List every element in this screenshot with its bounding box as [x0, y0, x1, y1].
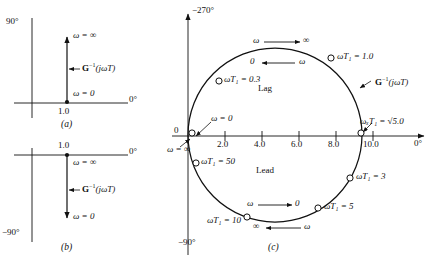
- panel-c-axis-top-label: −270°: [192, 6, 214, 15]
- panel-c-axis-right-label: 0°: [414, 139, 422, 148]
- panel-c-marker-label-0: ωT₁ = 0.3: [224, 75, 260, 84]
- panel-c-transfer-g: G: [375, 77, 382, 87]
- panel-c-omega-zero-label: ω = 0: [211, 114, 232, 123]
- panel-c-direction-1-from: 0: [250, 57, 255, 66]
- panel-c-direction-3-from: ∞: [253, 222, 259, 231]
- figure-text-layer: 90° 0° 1.0 ω = ∞ ω = 0 G−1(jωT) (a) −90°…: [0, 0, 436, 266]
- panel-c-xtick-1: 2.0: [217, 140, 228, 149]
- panel-a-axis-top-label: 90°: [6, 17, 19, 26]
- panel-b-real-tick-label: 1.0: [58, 141, 69, 150]
- figure-inverse-polar-plots: 90° 0° 1.0 ω = ∞ ω = 0 G−1(jωT) (a) −90°…: [0, 0, 436, 266]
- panel-c-transfer-function-label: G−1(jωT): [375, 76, 408, 87]
- panel-c-direction-2-from: ω: [247, 199, 253, 208]
- panel-c-marker-label-4: ωT₁ = 10: [207, 216, 241, 225]
- panel-b-caption: (b): [61, 243, 72, 253]
- panel-b-omega-infinity-label: ω = ∞: [73, 158, 96, 167]
- panel-c-xtick-5: 10.0: [363, 140, 379, 149]
- panel-c-marker-label-5: ωT₁ = 50: [201, 157, 235, 166]
- panel-a-omega-infinity-label: ω = ∞: [73, 31, 96, 40]
- panel-b-transfer-arg: (jωT): [95, 184, 115, 194]
- panel-c-transfer-arg: (jωT): [388, 77, 408, 87]
- panel-c-direction-0-from: ω: [253, 36, 259, 45]
- panel-c-direction-2-to: 0: [295, 199, 300, 208]
- panel-b-transfer-function-label: G−1(jωT): [82, 183, 115, 194]
- panel-a-transfer-arg: (jωT): [95, 63, 115, 73]
- panel-c-caption: (c): [268, 243, 279, 253]
- panel-c-xtick-3: 6.0: [291, 140, 302, 149]
- panel-c-omega-infinity-label: ω = ∞: [167, 145, 190, 154]
- panel-c-direction-0-to: ∞: [303, 36, 309, 45]
- panel-c-region-lead-label: Lead: [256, 166, 274, 175]
- panel-b-axis-bottom-label: −90°: [2, 228, 20, 237]
- panel-c-marker-label-2: ωT₁ = 3: [356, 172, 386, 181]
- panel-c-marker-label-1: ωT₁ = 1.0: [337, 52, 373, 61]
- panel-b-transfer-g: G: [82, 184, 89, 194]
- panel-a-real-tick-label: 1.0: [58, 107, 69, 116]
- panel-b-axis-right-label: 0°: [129, 147, 137, 156]
- panel-c-origin-label: 0: [174, 126, 179, 135]
- panel-a-transfer-function-label: G−1(jωT): [82, 62, 115, 73]
- panel-a-axis-right-label: 0°: [129, 95, 137, 104]
- panel-c-xtick-2: 4.0: [254, 140, 265, 149]
- panel-c-axis-bottom-label: −90°: [178, 238, 196, 247]
- panel-b-omega-zero-label: ω = 0: [73, 212, 94, 221]
- panel-c-region-lag-label: Lag: [258, 84, 272, 93]
- panel-c-xtick-4: 8.0: [328, 140, 339, 149]
- panel-a-caption: (a): [61, 120, 72, 130]
- panel-a-omega-zero-label: ω = 0: [73, 89, 94, 98]
- panel-c-crossover-label: ωₓT₁ = √5.0: [360, 117, 404, 126]
- panel-a-transfer-g: G: [82, 63, 89, 73]
- panel-c-marker-label-3: ωT₁ = 5: [324, 202, 354, 211]
- panel-c-direction-3-to: ω: [304, 222, 310, 231]
- panel-c-direction-1-to: ω: [299, 57, 305, 66]
